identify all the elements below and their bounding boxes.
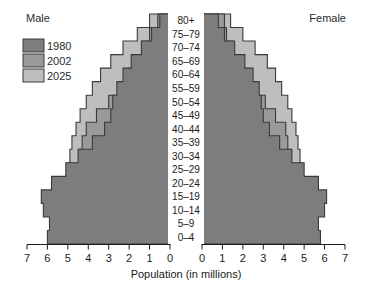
chart-canvas: Male Female 198020022025 0–45–910–1415–1… (0, 0, 372, 294)
population-pyramid-chart: Male Female 198020022025 0–45–910–1415–1… (0, 0, 372, 294)
age-group-label: 35–39 (172, 137, 200, 148)
age-group-label: 75–79 (172, 29, 200, 40)
age-group-label: 50–54 (172, 97, 200, 108)
male-side-label: Male (26, 12, 50, 24)
axis-tick-label: 1 (219, 252, 225, 264)
female-side-label: Female (309, 12, 346, 24)
axis-tick-label: 3 (106, 252, 112, 264)
age-group-label: 45–49 (172, 110, 200, 121)
age-group-label: 15–19 (172, 191, 200, 202)
age-group-label: 20–24 (172, 178, 200, 189)
axis-tick-label: 7 (24, 252, 30, 264)
age-group-labels: 0–45–910–1415–1920–2425–2930–3435–3940–4… (172, 15, 200, 242)
age-group-label: 55–59 (172, 83, 200, 94)
axis-tick-label: 1 (147, 252, 153, 264)
legend-label-2002: 2002 (47, 55, 71, 67)
age-group-label: 10–14 (172, 205, 200, 216)
axis-tick-label: 0 (167, 252, 173, 264)
axis-tick-label: 0 (199, 252, 205, 264)
legend-label-1980: 1980 (47, 40, 71, 52)
age-group-label: 25–29 (172, 164, 200, 175)
legend-swatch-1980[interactable] (23, 39, 44, 52)
age-group-label: 0–4 (178, 232, 195, 243)
age-group-label: 30–34 (172, 151, 200, 162)
age-group-label: 40–44 (172, 124, 200, 135)
x-axis-title: Population (in millions) (131, 268, 242, 280)
axis-tick-label: 2 (126, 252, 132, 264)
age-group-label: 70–74 (172, 42, 200, 53)
age-group-label: 5–9 (178, 218, 195, 229)
legend: 198020022025 (23, 39, 71, 82)
legend-label-2025: 2025 (47, 70, 71, 82)
age-group-label: 65–69 (172, 56, 200, 67)
age-group-label: 80+ (178, 15, 195, 26)
legend-swatch-2002[interactable] (23, 54, 44, 67)
axis-tick-label: 4 (85, 252, 91, 264)
age-group-label: 60–64 (172, 69, 200, 80)
axis-tick-label: 6 (44, 252, 50, 264)
axis-tick-label: 2 (240, 252, 246, 264)
axis-tick-label: 6 (322, 252, 328, 264)
axis-tick-label: 3 (260, 252, 266, 264)
axis-tick-label: 5 (301, 252, 307, 264)
series-area-female-1980 (202, 14, 327, 244)
x-axis: 7654321001234567 (24, 245, 348, 265)
axis-tick-label: 7 (342, 252, 348, 264)
legend-swatch-2025[interactable] (23, 69, 44, 82)
axis-tick-label: 4 (281, 252, 287, 264)
axis-tick-label: 5 (65, 252, 71, 264)
